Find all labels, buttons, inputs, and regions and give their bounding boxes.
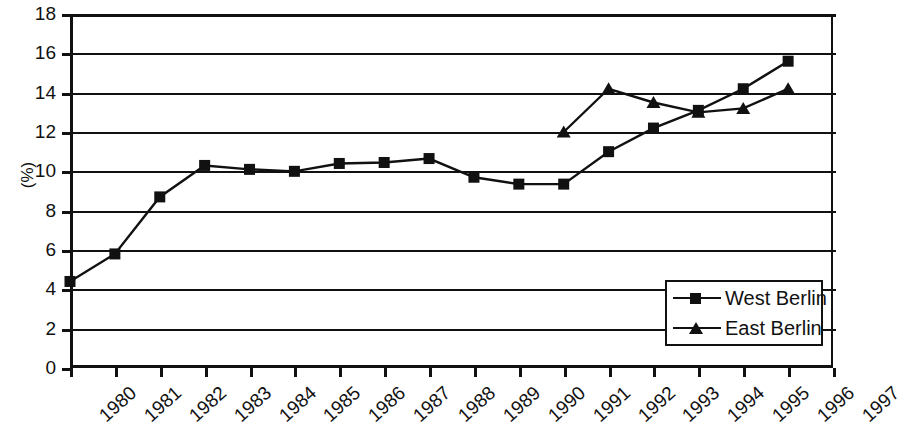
- legend-label-west-berlin: West Berlin: [721, 288, 827, 308]
- x-tick-mark: [653, 368, 656, 377]
- x-tick-mark: [474, 368, 477, 377]
- x-tick-label: 1990: [544, 382, 590, 427]
- y-tick-label: 8: [10, 201, 56, 220]
- x-tick-label: 1986: [364, 382, 410, 427]
- gridline: [73, 171, 836, 173]
- y-tick-label: 18: [10, 4, 56, 23]
- x-tick-label: 1984: [274, 382, 320, 427]
- y-tick-label: 14: [10, 83, 56, 102]
- legend-label-east-berlin: East Berlin: [721, 318, 822, 338]
- triangle-marker-icon: [673, 321, 721, 335]
- x-tick-mark: [698, 368, 701, 377]
- x-tick-mark: [384, 368, 387, 377]
- x-tick-mark: [160, 368, 163, 377]
- legend-item-east-berlin: East Berlin: [667, 313, 821, 343]
- legend-item-west-berlin: West Berlin: [667, 283, 821, 313]
- x-tick-label: 1989: [499, 382, 545, 427]
- y-tick-label: 2: [10, 319, 56, 338]
- x-tick-label: 1983: [230, 382, 276, 427]
- x-tick-mark: [250, 368, 253, 377]
- gridline: [73, 53, 836, 55]
- x-tick-label: 1996: [813, 382, 859, 427]
- y-tick-label: 16: [10, 43, 56, 62]
- x-tick-mark: [339, 368, 342, 377]
- x-tick-label: 1980: [95, 382, 141, 427]
- x-tick-mark: [115, 368, 118, 377]
- x-tick-mark: [609, 368, 612, 377]
- x-tick-label: 1993: [678, 382, 724, 427]
- x-tick-label: 1981: [140, 382, 186, 427]
- gridline: [73, 132, 836, 134]
- x-tick-mark: [743, 368, 746, 377]
- x-tick-mark: [564, 368, 567, 377]
- chart-legend: West Berlin East Berlin: [665, 280, 823, 346]
- y-tick-label: 6: [10, 240, 56, 259]
- x-tick-label: 1982: [185, 382, 231, 427]
- x-tick-mark: [70, 368, 73, 377]
- square-marker-icon: [673, 291, 721, 305]
- gridline: [73, 250, 836, 252]
- y-tick-label: 4: [10, 279, 56, 298]
- x-tick-label: 1995: [768, 382, 814, 427]
- y-tick-label: 12: [10, 122, 56, 141]
- x-tick-label: 1992: [633, 382, 679, 427]
- x-tick-mark: [788, 368, 791, 377]
- y-tick-label: 10: [10, 161, 56, 180]
- x-tick-label: 1988: [454, 382, 500, 427]
- x-tick-label: 1985: [319, 382, 365, 427]
- x-tick-label: 1997: [858, 382, 901, 427]
- x-tick-mark: [205, 368, 208, 377]
- gridline: [73, 14, 836, 17]
- x-tick-label: 1987: [409, 382, 455, 427]
- x-tick-mark: [833, 368, 836, 377]
- x-tick-label: 1994: [723, 382, 769, 427]
- x-tick-label: 1991: [589, 382, 635, 427]
- x-tick-mark: [294, 368, 297, 377]
- gridline: [73, 93, 836, 95]
- gridline: [73, 211, 836, 213]
- x-tick-mark: [429, 368, 432, 377]
- y-tick-label: 0: [10, 358, 56, 377]
- x-tick-mark: [519, 368, 522, 377]
